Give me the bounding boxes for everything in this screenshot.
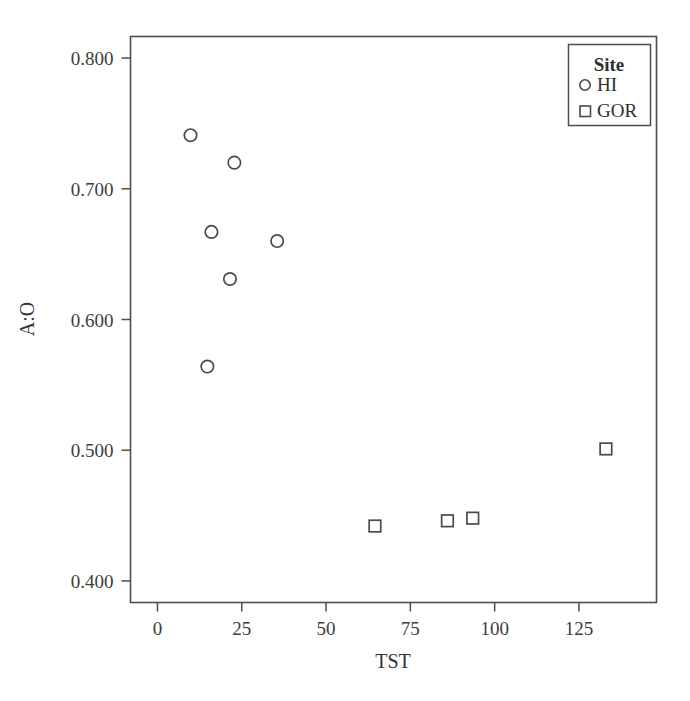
legend-label-hi: HI [597,74,617,95]
plot-canvas: 0255075100125 0.4000.5000.6000.7000.800 … [0,0,690,701]
y-tick-label: 0.500 [71,440,114,461]
x-tick-label: 25 [232,618,251,639]
x-tick-label: 100 [480,618,509,639]
scatter-plot-figure: 0255075100125 0.4000.5000.6000.7000.800 … [0,0,690,701]
x-tick-label: 0 [153,618,163,639]
x-tick-label: 75 [401,618,420,639]
y-axis-title: A:O [16,302,38,336]
legend-label-gor: GOR [597,100,637,121]
y-tick-label: 0.700 [71,179,114,200]
x-tick-label: 125 [565,618,594,639]
x-tick-label: 50 [317,618,336,639]
legend-title: Site [594,54,625,75]
y-tick-label: 0.400 [71,571,114,592]
legend: Site HIGOR [569,45,651,126]
x-axis-title: TST [375,650,411,672]
y-tick-label: 0.600 [71,310,114,331]
y-tick-label: 0.800 [71,48,114,69]
